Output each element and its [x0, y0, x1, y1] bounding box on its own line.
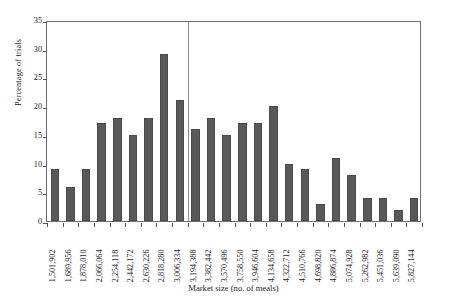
bar	[363, 198, 372, 221]
y-tick-label: 5	[22, 189, 42, 197]
bar	[51, 169, 60, 221]
bar	[160, 54, 169, 221]
x-tick-label: 4,698,820	[314, 224, 322, 282]
x-tick-label: 1,689,956	[64, 224, 72, 282]
bar	[379, 198, 388, 221]
x-tick-label: 5,451,036	[377, 224, 385, 282]
y-axis-tick-labels: 05101520253035	[20, 0, 42, 303]
bar	[316, 204, 325, 221]
bar	[332, 158, 341, 221]
plot-area	[46, 21, 421, 222]
x-tick-label: 5,074,928	[346, 224, 354, 282]
y-tick-mark	[43, 108, 47, 109]
vertical-reference-line	[188, 22, 189, 221]
bar	[269, 106, 278, 221]
bar	[113, 118, 122, 221]
y-tick-mark	[43, 137, 47, 138]
y-tick-label: 10	[22, 160, 42, 168]
x-axis-title: Market size (no. of meals)	[0, 283, 467, 293]
plot-inner	[47, 22, 420, 221]
x-tick-label: 3,946,604	[252, 224, 260, 282]
x-tick-label: 4,134,658	[268, 224, 276, 282]
x-tick-label: 5,827,144	[408, 224, 416, 282]
bar	[285, 164, 294, 221]
bar	[82, 169, 91, 221]
x-tick-label: 2,066,064	[96, 224, 104, 282]
bar	[207, 118, 216, 221]
x-tick-label: 3,758,550	[236, 224, 244, 282]
bar	[394, 210, 403, 221]
x-tick-label: 1,878,010	[80, 224, 88, 282]
x-tick-label: 2,818,280	[158, 224, 166, 282]
x-tick-label: 2,254,118	[111, 224, 119, 282]
x-axis-tick-labels: 1,501,9021,689,9561,878,0102,066,0642,25…	[46, 224, 421, 282]
bar	[191, 129, 200, 221]
y-tick-label: 20	[22, 103, 42, 111]
bar	[238, 123, 247, 221]
x-tick-label: 3,194,388	[189, 224, 197, 282]
y-tick-label: 35	[22, 17, 42, 25]
bar	[222, 135, 231, 221]
y-tick-label: 25	[22, 74, 42, 82]
bar	[176, 100, 185, 221]
x-tick-label: 4,322,712	[283, 224, 291, 282]
x-tick-label: 3,006,334	[174, 224, 182, 282]
x-tick-label: 1,501,902	[49, 224, 57, 282]
histogram-figure: Percentage of trials 05101520253035 1,50…	[0, 0, 467, 303]
bar	[144, 118, 153, 221]
x-tick-label: 4,886,874	[330, 224, 338, 282]
bar	[301, 169, 310, 221]
x-tick-label: 4,510,766	[299, 224, 307, 282]
x-tick-label: 3,570,496	[221, 224, 229, 282]
y-tick-label: 30	[22, 46, 42, 54]
x-tick-label: 5,639,090	[393, 224, 401, 282]
bar	[347, 175, 356, 221]
x-tick-mark	[422, 223, 423, 227]
x-tick-label: 2,630,226	[143, 224, 151, 282]
y-tick-mark	[43, 79, 47, 80]
bar	[129, 135, 138, 221]
x-tick-label: 5,262,982	[361, 224, 369, 282]
bar	[66, 187, 75, 221]
x-tick-label: 3,382,442	[205, 224, 213, 282]
y-tick-label: 0	[22, 218, 42, 226]
y-tick-label: 15	[22, 132, 42, 140]
y-tick-mark	[43, 194, 47, 195]
bar	[254, 123, 263, 221]
y-tick-mark	[43, 22, 47, 23]
bar	[97, 123, 106, 221]
y-tick-mark	[43, 166, 47, 167]
x-tick-label: 2,442,172	[127, 224, 135, 282]
y-tick-mark	[43, 51, 47, 52]
bar	[410, 198, 419, 221]
